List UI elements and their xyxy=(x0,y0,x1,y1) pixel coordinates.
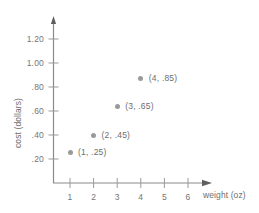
scatter-chart: .20 .40 .60 .80 1.00 1.20 1 2 3 4 5 6 co… xyxy=(0,0,259,213)
x-tick-label-4: 5 xyxy=(154,192,174,202)
x-tick-label-2: 3 xyxy=(107,192,127,202)
data-point-label: (3, .65) xyxy=(125,101,154,111)
y-tick-label-4: 1.00 xyxy=(16,58,44,68)
data-point-marker xyxy=(91,133,96,138)
y-tick-label-5: 1.20 xyxy=(16,34,44,44)
y-tick-label-3: .80 xyxy=(16,82,44,92)
y-axis-title: cost (dollars) xyxy=(13,98,23,148)
data-point-marker xyxy=(68,150,73,155)
x-tick-label-3: 4 xyxy=(131,192,151,202)
x-axis-title: weight (oz) xyxy=(203,190,246,200)
data-point-marker xyxy=(138,76,143,81)
data-point-label: (4, .85) xyxy=(149,73,178,83)
data-point-marker xyxy=(115,104,120,109)
data-point-label: (1, .25) xyxy=(78,147,107,157)
x-tick-label-5: 6 xyxy=(178,192,198,202)
data-point-label: (2, .45) xyxy=(102,130,131,140)
x-tick-label-1: 2 xyxy=(84,192,104,202)
x-axis-arrowhead xyxy=(202,180,212,186)
y-tick-label-0: .20 xyxy=(16,154,44,164)
y-axis-arrowhead xyxy=(51,16,56,24)
x-tick-label-0: 1 xyxy=(60,192,80,202)
